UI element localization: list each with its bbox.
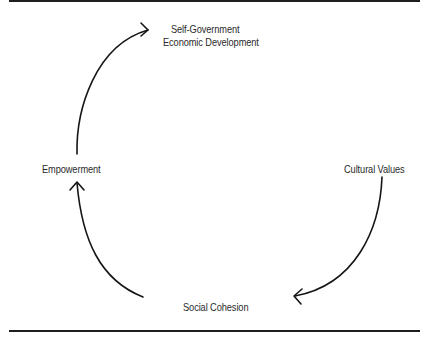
node-cultural-values: Cultural Values — [344, 163, 405, 176]
node-self-government: Self-Government Economic Development — [163, 23, 247, 49]
arrow-cohesion-to-empowerment — [70, 182, 143, 297]
node-social-cohesion: Social Cohesion — [183, 301, 248, 314]
node-self-government-line2: Economic Development — [163, 36, 247, 49]
bottom-rule — [9, 330, 420, 332]
node-empowerment: Empowerment — [42, 163, 101, 176]
arrow-empowerment-to-selfgov — [77, 23, 148, 154]
node-self-government-line1: Self-Government — [163, 23, 247, 36]
arrow-cultural-to-cohesion — [294, 177, 382, 304]
